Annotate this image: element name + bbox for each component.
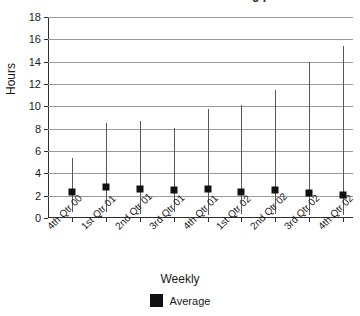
y-tick-mark [44,39,48,40]
y-tick-label: 4 [35,168,41,179]
x-tick-mark [174,218,175,222]
chart-legend: Average [0,294,360,307]
y-tick-mark [44,218,48,219]
y-tick-label: 14 [29,56,41,67]
gridline [48,129,353,130]
y-tick-label: 8 [35,123,41,134]
data-point-marker[interactable] [204,185,211,192]
x-axis-title: Weekly [0,272,360,286]
chart-container: g p 181614121086420 4th Qtr 001st Qtr 01… [0,0,360,316]
gridline [48,84,353,85]
gridline [48,17,353,18]
y-tick-mark [44,196,48,197]
y-tick-label: 0 [35,213,41,224]
y-tick-label: 12 [29,79,41,90]
y-tick-mark [44,62,48,63]
y-tick-mark [44,129,48,130]
chart-title-remnant: g p [252,0,352,2]
y-tick-label: 16 [29,34,41,45]
x-tick-mark [140,218,141,222]
error-bar [343,46,344,215]
y-axis-title: Hours [4,63,18,95]
gridline [48,62,353,63]
y-tick-mark [44,106,48,107]
y-tick-mark [44,84,48,85]
plot-area: 181614121086420 [48,17,353,218]
x-tick-mark [72,218,73,222]
y-tick-label: 2 [35,190,41,201]
data-point-marker[interactable] [170,187,177,194]
y-tick-mark [44,173,48,174]
x-tick-mark [309,218,310,222]
x-tick-mark [343,218,344,222]
x-tick-mark [208,218,209,222]
x-tick-mark [106,218,107,222]
data-point-marker[interactable] [136,185,143,192]
x-tick-mark [241,218,242,222]
y-tick-label: 18 [29,12,41,23]
y-tick-label: 6 [35,146,41,157]
legend-label-average: Average [170,295,211,307]
y-axis-line [48,17,49,218]
legend-swatch-average [150,294,163,307]
gridline [48,106,353,107]
gridline [48,39,353,40]
gridline [48,151,353,152]
data-point-marker[interactable] [102,183,109,190]
gridline [48,173,353,174]
y-tick-label: 10 [29,101,41,112]
y-tick-mark [44,151,48,152]
x-tick-mark [275,218,276,222]
y-tick-mark [44,17,48,18]
